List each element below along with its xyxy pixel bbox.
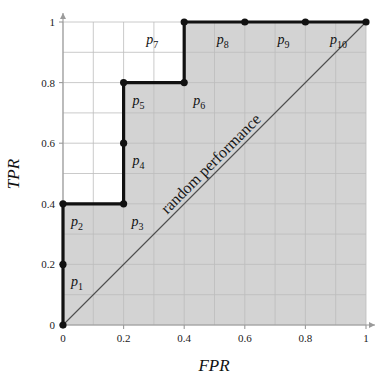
data-point-marker bbox=[362, 18, 369, 25]
x-tick-label: 0.2 bbox=[117, 332, 131, 344]
y-tick-label: 0.8 bbox=[41, 77, 55, 89]
x-tick-label: 1 bbox=[363, 332, 369, 344]
y-tick-label: 0.6 bbox=[41, 137, 55, 149]
data-point-marker bbox=[181, 79, 188, 86]
x-axis-title: FPR bbox=[197, 356, 230, 375]
data-point-marker bbox=[302, 18, 309, 25]
x-tick-label: 0 bbox=[60, 332, 66, 344]
y-tick-label: 0.4 bbox=[41, 198, 55, 210]
y-tick-label: 0 bbox=[50, 319, 56, 331]
x-tick-label: 0.4 bbox=[177, 332, 191, 344]
y-tick-label: 1 bbox=[50, 16, 56, 28]
point-label-p7: p7 bbox=[145, 32, 158, 50]
x-tick-label: 0.8 bbox=[299, 332, 313, 344]
data-point-marker bbox=[59, 261, 66, 268]
data-point-marker bbox=[59, 321, 66, 328]
data-point-marker bbox=[120, 79, 127, 86]
roc-curve-chart: 00.20.40.60.8100.20.40.60.81 p1p2p3p4p5p… bbox=[0, 0, 386, 379]
y-axis-title: TPR bbox=[4, 158, 23, 189]
data-point-marker bbox=[120, 140, 127, 147]
x-tick-label: 0.6 bbox=[238, 332, 252, 344]
y-tick-label: 0.2 bbox=[41, 258, 55, 270]
data-point-marker bbox=[181, 18, 188, 25]
roc-chart-page: 00.20.40.60.8100.20.40.60.81 p1p2p3p4p5p… bbox=[0, 0, 386, 379]
data-point-marker bbox=[241, 18, 248, 25]
data-point-marker bbox=[120, 200, 127, 207]
data-point-marker bbox=[59, 200, 66, 207]
